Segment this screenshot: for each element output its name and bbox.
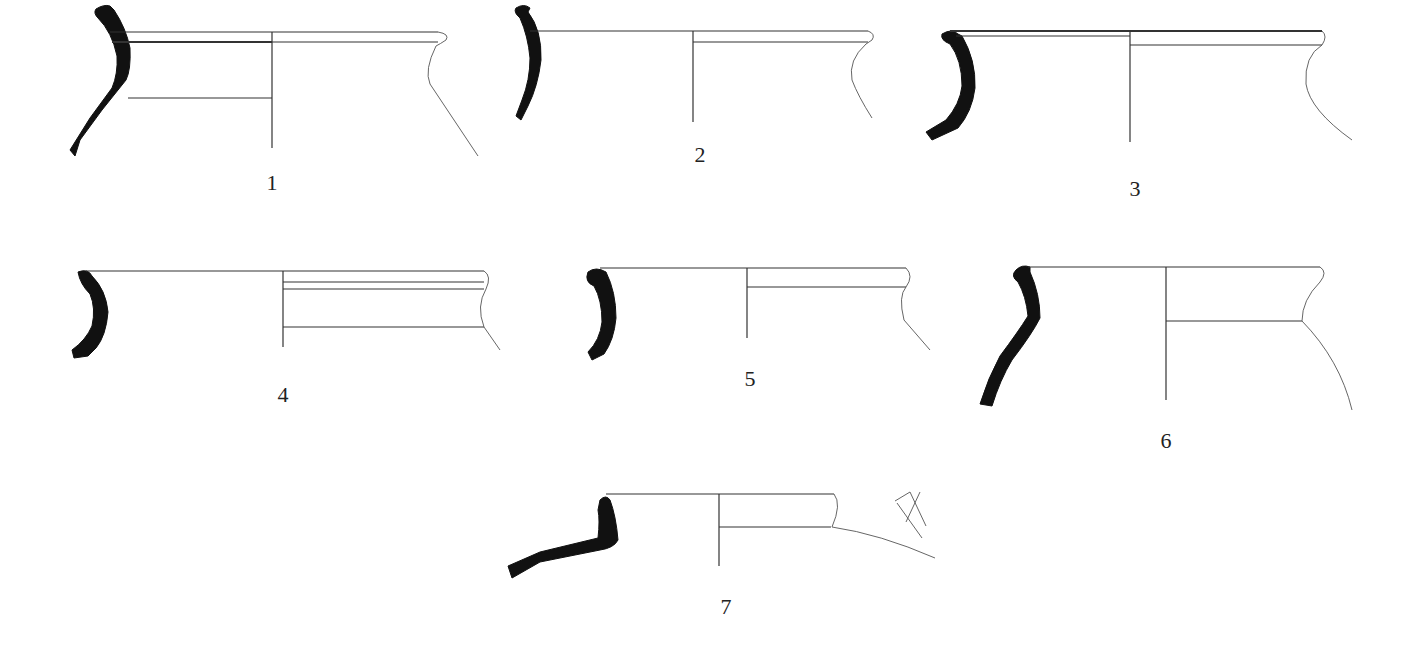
profile-7	[508, 492, 935, 578]
figure-label-7: 7	[721, 594, 732, 620]
figure-label-2: 2	[695, 142, 706, 168]
figure-label-5: 5	[745, 366, 756, 392]
figure-label-3: 3	[1130, 176, 1141, 202]
profile-1	[70, 5, 478, 156]
pottery-profile-plate	[0, 0, 1420, 653]
profile-2	[515, 6, 873, 123]
profile-4	[72, 271, 500, 358]
profile-6	[980, 266, 1352, 410]
profile-5	[587, 268, 930, 360]
figure-label-4: 4	[278, 382, 289, 408]
figure-label-6: 6	[1161, 428, 1172, 454]
figure-label-1: 1	[267, 170, 278, 196]
profile-3	[926, 31, 1352, 142]
